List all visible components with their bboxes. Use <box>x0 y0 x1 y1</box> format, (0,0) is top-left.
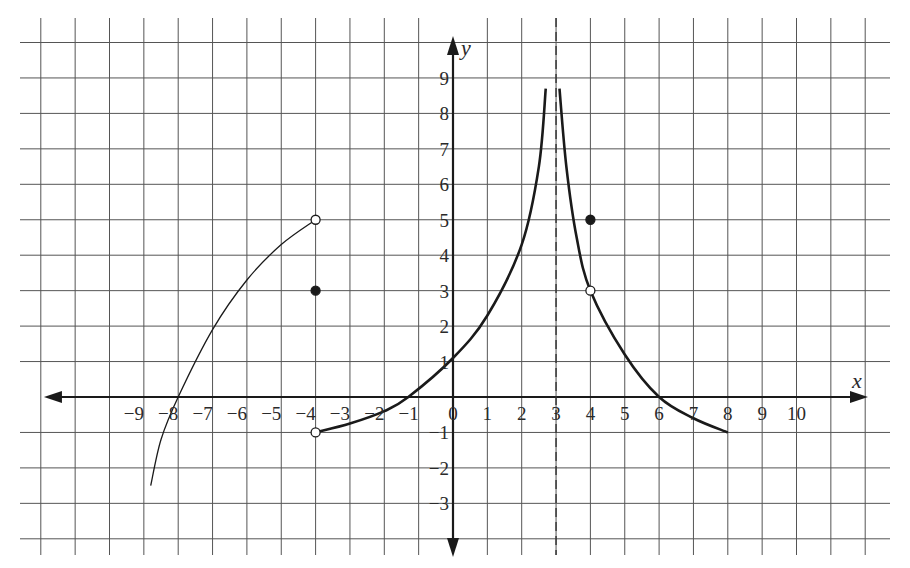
x-tick-label: −5 <box>261 403 281 424</box>
coordinate-plane: −9−8−7−6−5−4−3−2−1012345678910987654321−… <box>0 0 910 568</box>
y-tick-label: 1 <box>440 352 450 373</box>
x-tick-label: −7 <box>192 403 212 424</box>
y-tick-label: 7 <box>440 139 450 160</box>
graph-figure: −9−8−7−6−5−4−3−2−1012345678910987654321−… <box>0 0 910 568</box>
x-tick-label: 6 <box>654 403 664 424</box>
closed-point <box>586 215 595 224</box>
axes <box>44 18 868 557</box>
x-tick-label: −6 <box>227 403 247 424</box>
y-tick-label: −1 <box>429 422 449 443</box>
x-tick-label: 2 <box>517 403 527 424</box>
left-branch-curve <box>151 220 316 486</box>
x-tick-label: 5 <box>620 403 630 424</box>
x-tick-label: 3 <box>551 403 561 424</box>
x-tick-label: −3 <box>330 403 350 424</box>
open-point <box>311 215 320 224</box>
closed-point <box>311 286 320 295</box>
y-tick-label: 2 <box>440 316 450 337</box>
x-tick-label: 1 <box>483 403 493 424</box>
right-branch-curve <box>559 89 727 433</box>
y-tick-label: 6 <box>440 174 450 195</box>
y-tick-label: 4 <box>440 245 450 266</box>
y-axis-label: y <box>459 35 471 60</box>
x-tick-label: −1 <box>399 403 419 424</box>
x-tick-label: −2 <box>364 403 384 424</box>
y-tick-label: −3 <box>429 493 449 514</box>
x-tick-label: −8 <box>158 403 178 424</box>
x-tick-label: 4 <box>586 403 596 424</box>
x-tick-label: 7 <box>689 403 699 424</box>
open-point <box>586 286 595 295</box>
grid-lines <box>20 18 890 555</box>
x-tick-label: −4 <box>295 403 316 424</box>
y-tick-label: 5 <box>440 210 450 231</box>
x-tick-label: −9 <box>124 403 144 424</box>
x-tick-label: 8 <box>723 403 733 424</box>
x-axis-label: x <box>851 368 862 393</box>
open-point <box>311 428 320 437</box>
y-tick-label: 3 <box>440 281 450 302</box>
y-tick-label: 8 <box>440 103 450 124</box>
x-tick-label: 10 <box>787 403 806 424</box>
x-tick-label: 9 <box>757 403 767 424</box>
y-tick-label: 9 <box>440 68 450 89</box>
y-tick-label: −2 <box>429 458 449 479</box>
x-tick-label: 0 <box>448 403 458 424</box>
